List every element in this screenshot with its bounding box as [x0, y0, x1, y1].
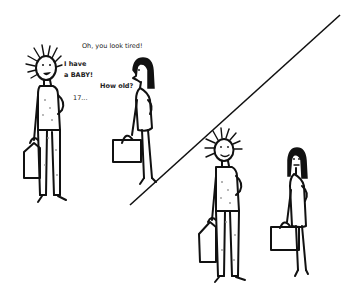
dialogue-oh-you-look-tired: Oh, you look tired! [82, 42, 143, 50]
woman-figure-panel1 [113, 58, 156, 184]
dialogue-seventeen: 17... [73, 94, 87, 102]
tired-man-figure-panel1 [24, 45, 66, 202]
comic-drawing [0, 0, 359, 293]
panel-divider-line [130, 15, 340, 205]
dialogue-how-old: How old? [100, 82, 133, 90]
woman-figure-panel2 [271, 148, 308, 276]
man-figure-panel2 [199, 128, 245, 282]
dialogue-i-have-line1: I have [64, 60, 86, 68]
dialogue-a-baby-line2: a BABY! [64, 71, 93, 79]
comic-canvas: Oh, you look tired! I have a BABY! How o… [0, 0, 359, 293]
